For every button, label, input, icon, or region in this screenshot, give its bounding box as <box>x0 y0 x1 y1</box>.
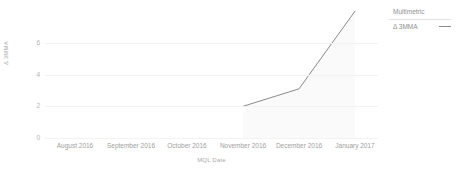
legend-divider <box>389 19 451 20</box>
plot-area <box>45 8 378 138</box>
y-tick-label: 4 <box>10 71 40 78</box>
gridline <box>45 106 378 107</box>
y-tick-label: 6 <box>10 40 40 47</box>
legend-title: Multimetric <box>389 8 451 16</box>
gridline <box>45 138 378 139</box>
x-axis-ticks: August 2016September 2016October 2016Nov… <box>45 143 378 155</box>
gridline <box>45 43 378 44</box>
legend-entry[interactable]: Δ 3MMA <box>389 23 451 31</box>
series-svg <box>45 8 378 138</box>
legend-line-swatch-icon <box>439 26 451 27</box>
y-tick-label: 0 <box>10 135 40 142</box>
y-axis-ticks: 6420 <box>8 8 40 138</box>
x-axis-title: MQL Date <box>45 157 378 163</box>
legend-entries: Δ 3MMA <box>389 23 451 31</box>
chart-legend: Multimetric Δ 3MMA <box>389 8 451 31</box>
y-tick-label: 2 <box>10 103 40 110</box>
x-tick-label: January 2017 <box>315 143 395 150</box>
chart-container: Δ 3MMA 6420 August 2016September 2016Oct… <box>0 0 457 173</box>
legend-entry-label: Δ 3MMA <box>393 23 418 31</box>
gridline <box>45 75 378 76</box>
